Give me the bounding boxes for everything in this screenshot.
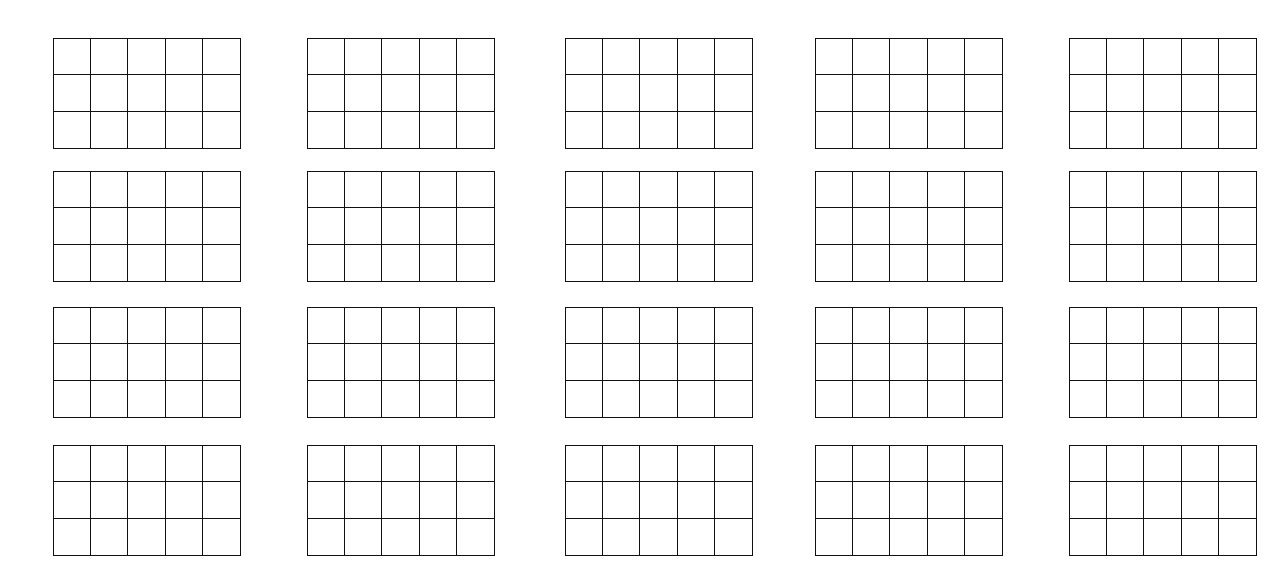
grid-cell — [965, 519, 1002, 555]
grid-cell — [203, 519, 240, 555]
grid-cell — [1070, 208, 1107, 244]
grid-cell — [928, 208, 965, 244]
grid-cell — [890, 381, 927, 417]
grid-cell — [640, 112, 677, 148]
grid-cell — [1182, 482, 1219, 518]
grid-cell — [54, 308, 91, 344]
grid-cell — [566, 381, 603, 417]
grid-cell — [166, 245, 203, 281]
grid-cell — [678, 112, 715, 148]
grid-cell — [1107, 112, 1144, 148]
grid-cell — [566, 519, 603, 555]
grid-cell — [1182, 172, 1219, 208]
grid-cell — [345, 75, 382, 111]
grid-cell — [345, 245, 382, 281]
grid-cell — [1219, 112, 1256, 148]
grid-cell — [345, 172, 382, 208]
grid-cell — [566, 112, 603, 148]
grid-cell — [678, 75, 715, 111]
grid-cell — [965, 172, 1002, 208]
grid-cell — [457, 446, 494, 482]
grid-cell — [715, 446, 752, 482]
grid-cell — [640, 344, 677, 380]
grid-cell — [965, 308, 1002, 344]
grid-cell — [603, 75, 640, 111]
grid-cell — [457, 39, 494, 75]
grid-cell — [1107, 208, 1144, 244]
grid-cell — [1182, 446, 1219, 482]
blank-table-grid — [565, 38, 753, 149]
grid-cell — [853, 381, 890, 417]
grid-cell — [640, 381, 677, 417]
grid-cell — [308, 519, 345, 555]
grid-cell — [816, 172, 853, 208]
grid-cell — [91, 482, 128, 518]
grid-cell — [965, 482, 1002, 518]
grid-cell — [382, 381, 419, 417]
grid-cell — [853, 112, 890, 148]
grid-cell — [928, 172, 965, 208]
grid-cell — [457, 308, 494, 344]
grid-cell — [816, 245, 853, 281]
grid-cell — [345, 519, 382, 555]
grid-cell — [1182, 344, 1219, 380]
blank-table-grid — [815, 307, 1003, 418]
grid-cell — [715, 519, 752, 555]
grid-cell — [640, 446, 677, 482]
grid-cell — [382, 308, 419, 344]
grid-cell — [1070, 172, 1107, 208]
grid-cell — [457, 344, 494, 380]
grid-cell — [928, 446, 965, 482]
grid-cell — [166, 172, 203, 208]
grid-cell — [203, 172, 240, 208]
grid-cell — [640, 519, 677, 555]
grid-cell — [640, 208, 677, 244]
grid-cell — [890, 75, 927, 111]
grid-cell — [382, 172, 419, 208]
grid-cell — [928, 75, 965, 111]
grid-cell — [420, 446, 457, 482]
grid-cell — [1182, 39, 1219, 75]
grid-cell — [128, 245, 165, 281]
grid-cell — [715, 381, 752, 417]
grid-cell — [853, 208, 890, 244]
grid-cell — [91, 172, 128, 208]
grid-cell — [1107, 39, 1144, 75]
grid-cell — [640, 39, 677, 75]
grid-cell — [603, 112, 640, 148]
grid-cell — [566, 446, 603, 482]
grid-cell — [54, 112, 91, 148]
blank-table-grid — [53, 307, 241, 418]
grid-cell — [1182, 208, 1219, 244]
grid-cell — [603, 482, 640, 518]
grid-cell — [54, 381, 91, 417]
grid-cell — [91, 75, 128, 111]
grid-cell — [816, 112, 853, 148]
grid-cell — [420, 308, 457, 344]
grid-cell — [965, 245, 1002, 281]
grid-cell — [54, 172, 91, 208]
blank-table-grid — [565, 445, 753, 556]
grid-cell — [853, 446, 890, 482]
grid-cell — [382, 208, 419, 244]
grid-cell — [91, 381, 128, 417]
grid-cell — [928, 482, 965, 518]
grid-cell — [54, 245, 91, 281]
blank-table-grid — [53, 38, 241, 149]
grid-cell — [54, 344, 91, 380]
grid-cell — [1219, 39, 1256, 75]
grid-cell — [928, 308, 965, 344]
grid-cell — [965, 381, 1002, 417]
grid-cell — [640, 75, 677, 111]
grid-cell — [54, 446, 91, 482]
grid-cell — [1144, 208, 1181, 244]
grid-cell — [128, 75, 165, 111]
grid-cell — [715, 172, 752, 208]
grid-cell — [1107, 75, 1144, 111]
grid-cell — [928, 344, 965, 380]
grid-cell — [382, 482, 419, 518]
grid-cell — [457, 112, 494, 148]
grid-cell — [566, 208, 603, 244]
grid-cell — [1144, 245, 1181, 281]
grid-cell — [91, 39, 128, 75]
